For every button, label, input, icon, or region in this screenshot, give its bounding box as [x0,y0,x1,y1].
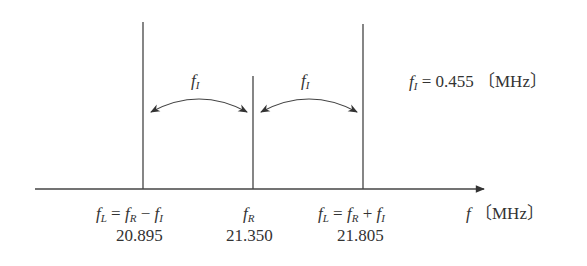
arc-label-sub: I [306,79,310,91]
label-fr-value: 21.350 [226,227,273,244]
note-sub: I [414,80,418,92]
frequency-diagram [0,0,587,266]
label-fl-minus-value: 20.895 [116,227,163,244]
axis-label: f 〔MHz〕 [466,205,544,222]
label-fl-minus-formula: fL = fR − fI [96,205,163,222]
arc-label-left: fI [191,72,199,89]
axis-label-unit: 〔MHz〕 [475,204,544,223]
arc-right-double-arrow [261,99,357,112]
intermediate-frequency-note: fI = 0.455 〔MHz〕 [409,73,547,90]
arc-label-right: fI [301,72,309,89]
label-fr-formula: fR [243,205,254,222]
note-text: = 0.455 〔MHz〕 [422,72,547,91]
arc-left-double-arrow [151,99,247,112]
label-fl-plus-formula: fL = fR + fI [318,205,385,222]
axis-label-var: f [466,204,471,223]
label-fl-plus-value: 21.805 [337,227,384,244]
arc-label-sub: I [196,79,200,91]
